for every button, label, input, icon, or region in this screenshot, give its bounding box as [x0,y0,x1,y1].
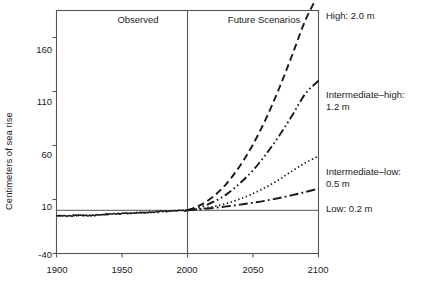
panel-label-observed: Observed [98,14,178,25]
chart-plot-area [0,0,425,294]
series-annotation-intermediate-low-line2: 0.5 m [326,178,350,189]
series-annotation-intermediate-high-line1: Intermediate–high: [326,89,405,100]
chart-background [0,0,425,294]
series-annotation-high: High: 2.0 m [326,10,375,21]
y-axis-label-wrapper: Centimeters of sea rise [2,60,18,210]
y-tick-label-60: 60 [28,149,52,160]
x-tick-label-1900: 1900 [42,264,72,275]
y-tick-label-minus40: -40 [24,249,52,260]
y-tick-label-160: 160 [28,44,52,55]
y-axis-label: Centimeters of sea rise [3,112,14,210]
x-tick-label-2050: 2050 [238,264,268,275]
x-tick-label-1950: 1950 [107,264,137,275]
series-annotation-low: Low: 0.2 m [326,203,372,214]
sea-level-rise-chart: Centimeters of sea rise 160 110 60 10 -4… [0,0,425,294]
y-tick-label-10: 10 [28,201,52,212]
panel-label-future-scenarios: Future Scenarios [212,14,316,25]
y-tick-label-110: 110 [28,96,52,107]
x-tick-label-2000: 2000 [172,264,202,275]
x-tick-label-2100: 2100 [303,264,333,275]
series-annotation-intermediate-high-line2: 1.2 m [326,101,350,112]
series-annotation-intermediate-low-line1: Intermediate–low: [326,166,401,177]
